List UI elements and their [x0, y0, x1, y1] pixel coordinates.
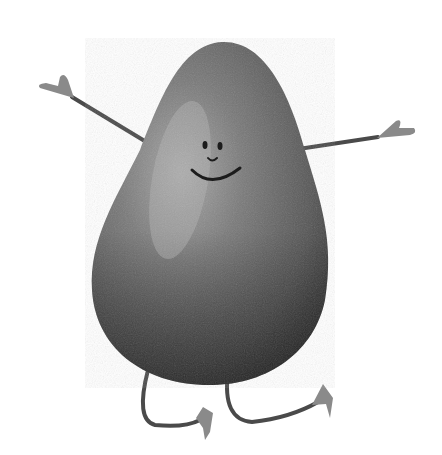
right-foot	[312, 384, 333, 418]
left-hand	[39, 75, 74, 98]
left-foot	[196, 407, 213, 440]
avocado-body	[85, 38, 335, 388]
right-eye	[218, 142, 223, 150]
left-eye	[203, 141, 208, 149]
right-hand	[377, 120, 415, 138]
avocado-character	[0, 0, 442, 455]
avocado-illustration: Grayscale watercolor illustration of a s…	[0, 0, 442, 455]
